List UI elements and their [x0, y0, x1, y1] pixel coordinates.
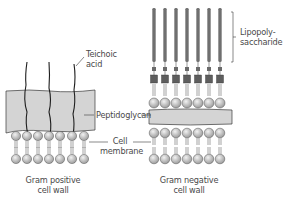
phospholipid	[204, 128, 214, 164]
phospholipid	[22, 147, 31, 164]
phospholipid	[44, 131, 53, 148]
phospholipid	[44, 147, 53, 164]
gram-positive-outer-leaflet	[11, 131, 88, 148]
phospholipid	[193, 128, 203, 164]
gram-negative-outer-membrane-heads	[149, 98, 225, 108]
lps-molecule	[206, 8, 213, 96]
phospholipid	[33, 131, 42, 148]
phospholipid	[182, 128, 192, 164]
lps-molecule	[195, 8, 202, 96]
peptidoglycan-label: Peptidoglycan	[96, 110, 151, 120]
lps-molecule	[151, 8, 158, 96]
phospholipid	[79, 147, 88, 164]
gram-negative-peptidoglycan-layer	[149, 109, 232, 125]
lipopolysaccharide-label: Lipopoly- saccharide	[240, 27, 282, 47]
phospholipid	[149, 128, 159, 164]
phospholipid	[55, 147, 64, 164]
phospholipid	[33, 147, 42, 164]
lipopolysaccharides	[151, 8, 224, 96]
phospholipid	[55, 131, 64, 148]
phospholipid	[79, 131, 88, 148]
lps-molecule	[162, 8, 169, 96]
teichoic-acid-leader	[76, 57, 84, 66]
gram-negative-caption: Gram negative cell wall	[152, 175, 226, 195]
phospholipid	[215, 128, 225, 164]
phospholipid	[11, 147, 20, 164]
phospholipid	[67, 131, 76, 148]
gram-positive-membrane	[11, 131, 88, 163]
lps-molecule	[217, 8, 224, 96]
phospholipid	[67, 147, 76, 164]
phospholipid	[11, 131, 20, 148]
cell-membrane-label: Cell membrane	[100, 136, 140, 156]
gram-negative-wall	[133, 8, 236, 164]
lps-molecule	[184, 8, 191, 96]
gram-positive-caption: Gram positive cell wall	[18, 175, 88, 195]
gram-positive-inner-leaflet	[11, 147, 88, 164]
lps-bracket	[231, 12, 236, 62]
phospholipid	[22, 131, 31, 148]
gram-positive-wall	[6, 57, 108, 164]
teichoic-acid-label: Teichoic acid	[86, 49, 117, 69]
lps-molecule	[173, 8, 180, 96]
gram-negative-inner-membrane	[149, 128, 225, 164]
phospholipid	[160, 128, 170, 164]
phospholipid	[171, 128, 181, 164]
